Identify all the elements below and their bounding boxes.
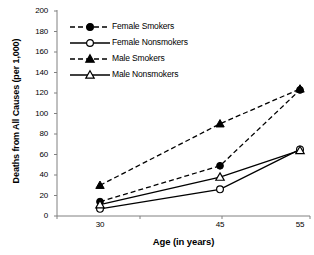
legend-sample: [70, 37, 110, 49]
series-line: [100, 150, 300, 204]
legend-sample: [70, 21, 110, 33]
legend-marker: [87, 40, 94, 47]
series-line: [100, 89, 300, 185]
legend-item-label: Female Nonsmokers: [112, 38, 188, 47]
legend-item-label: Male Nonsmokers: [112, 70, 178, 79]
legend-item-label: Male Smokers: [112, 54, 165, 63]
chart-figure: Deaths from All Causes (per 1,000) 20018…: [0, 0, 314, 255]
legend-item-label: Female Smokers: [112, 22, 174, 31]
data-point-marker: [217, 186, 224, 193]
data-point-marker: [216, 120, 224, 127]
series-line: [100, 90, 300, 202]
legend-sample: [70, 53, 110, 65]
legend-sample: [70, 69, 110, 81]
data-point-marker: [217, 162, 224, 169]
series-line: [100, 149, 300, 208]
legend-marker: [87, 24, 94, 31]
data-point-marker: [96, 181, 104, 188]
